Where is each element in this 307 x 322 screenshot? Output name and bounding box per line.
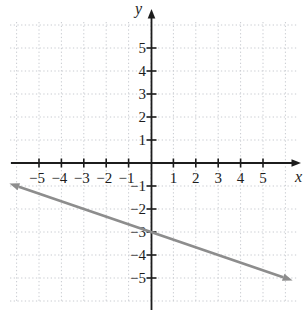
y-tick-label: −1 [130,178,146,194]
x-axis-label: x [295,169,302,185]
y-tick-label: 5 [139,40,147,56]
y-tick-label: 3 [139,86,147,102]
plotted-line-arrowhead [282,274,293,281]
x-tick-label: −5 [29,170,45,186]
y-tick-label: −2 [130,201,146,217]
axis-arrowheads [148,9,301,167]
y-axis-label: y [135,1,142,17]
x-tick-label: 2 [192,170,200,186]
y-axis-arrow [148,9,156,19]
x-tick-label: 1 [170,170,178,186]
x-axis-arrow [292,159,302,167]
x-tick-label: −3 [74,170,90,186]
y-tick-label: 1 [139,132,147,148]
x-tick-label: −4 [51,170,67,186]
x-tick-label: −2 [96,170,112,186]
y-tick-label: −5 [130,270,146,286]
y-tick-label: −4 [130,247,146,263]
x-tick-label: 5 [259,170,267,186]
x-tick-label: 3 [214,170,222,186]
plotted-line-arrowhead [9,183,20,190]
grid-lines [10,22,297,302]
x-tick-label: 4 [237,170,245,186]
y-tick-label: 2 [139,109,147,125]
y-tick-label: 4 [139,63,147,79]
coordinate-plane-figure: −5−4−3−2−112345−5−4−3−2−112345 y x [0,0,307,322]
graph-canvas: −5−4−3−2−112345−5−4−3−2−112345 [0,0,307,322]
